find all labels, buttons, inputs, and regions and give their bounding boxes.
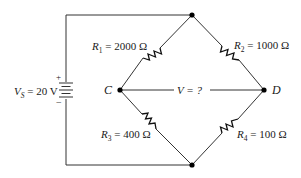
source-value: = 20 V — [24, 85, 57, 97]
r2-label: R2 = 1000 Ω — [233, 39, 289, 54]
resistor-r3-zigzag-icon — [142, 113, 156, 129]
node-d-label: D — [271, 83, 281, 97]
battery-plus-sign: + — [56, 72, 61, 82]
circuit-diagram: + − VS = 20 V R1 = 2000 Ω R2 = 1000 Ω R3… — [0, 0, 301, 178]
node-c-label: C — [104, 83, 113, 97]
source-label: VS = 20 V — [14, 85, 58, 100]
node-d-dot — [261, 87, 266, 92]
r3-label: R3 = 400 Ω — [100, 128, 151, 143]
resistor-r2 — [192, 15, 264, 90]
resistor-r4-zigzag-icon — [221, 119, 239, 133]
battery-icon — [59, 83, 73, 97]
measurement-label: V = ? — [177, 84, 202, 96]
node-c-dot — [117, 87, 122, 92]
node-bottom-dot — [189, 162, 194, 167]
resistor-r1 — [120, 15, 192, 90]
r4-label: R4 = 100 Ω — [236, 128, 287, 143]
node-top-dot — [189, 12, 194, 17]
r1-label: R1 = 2000 Ω — [91, 40, 147, 55]
battery-minus-sign: − — [56, 97, 62, 108]
